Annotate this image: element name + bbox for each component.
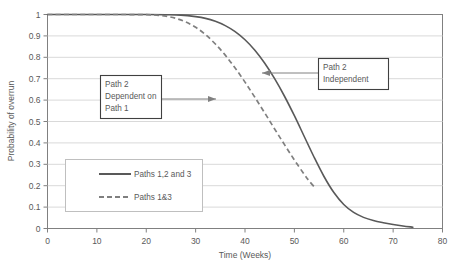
legend: Paths 1,2 and 3 Paths 1&3 <box>66 160 203 212</box>
y-tick-label: 0.3 <box>29 159 41 169</box>
legend-box <box>66 160 203 212</box>
y-tick-label: 0 <box>36 224 41 234</box>
y-tick-label: 0.6 <box>29 95 41 105</box>
annotation-line-2-independent: Independent <box>323 75 369 84</box>
legend-label-solid: Paths 1,2 and 3 <box>134 170 192 179</box>
x-axis-title: Time (Weeks) <box>219 250 272 260</box>
y-tick-label: 0.7 <box>29 74 41 84</box>
annotation-line-3-dependent: Path 1 <box>105 104 129 113</box>
y-tick-label: 0.5 <box>29 117 41 127</box>
x-tick-label: 20 <box>142 236 152 246</box>
x-tick-label: 60 <box>339 236 349 246</box>
x-tick-label: 10 <box>92 236 102 246</box>
annotation-line-1-dependent: Path 2 <box>105 80 129 89</box>
y-tick-label: 0.4 <box>29 138 41 148</box>
y-tick-label: 0.9 <box>29 31 41 41</box>
y-tick-label: 0.8 <box>29 52 41 62</box>
x-tick-label: 0 <box>45 236 50 246</box>
x-tick-label: 40 <box>240 236 250 246</box>
annotation-line-2-dependent: Dependent on <box>105 92 157 101</box>
y-tick-label: 0.1 <box>29 202 41 212</box>
chart-canvas: 00.10.20.30.40.50.60.70.80.91 0102030405… <box>0 0 460 276</box>
y-tick-label: 1 <box>36 10 41 20</box>
x-tick-label: 50 <box>290 236 300 246</box>
y-axis-title: Probability of overrun <box>6 81 16 162</box>
x-tick-label: 80 <box>438 236 448 246</box>
x-tick-label: 70 <box>388 236 398 246</box>
y-tick-label: 0.2 <box>29 181 41 191</box>
legend-label-dashed: Paths 1&3 <box>134 193 172 202</box>
probability-of-overrun-chart: 00.10.20.30.40.50.60.70.80.91 0102030405… <box>0 0 460 276</box>
x-tick-label: 30 <box>191 236 201 246</box>
annotation-line-1-independent: Path 2 <box>323 63 347 72</box>
